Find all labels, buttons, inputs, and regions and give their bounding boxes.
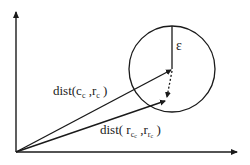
epsilon-label: ε <box>176 38 182 53</box>
dashed-arrow <box>167 71 172 97</box>
diagram-canvas: ε dist(cc ,rc ) dist( rcc ,rrc ) <box>0 0 250 165</box>
dist-lower-label: dist( rcc ,rrc ) <box>100 122 161 139</box>
dist-upper-label: dist(cc ,rc ) <box>53 83 107 100</box>
